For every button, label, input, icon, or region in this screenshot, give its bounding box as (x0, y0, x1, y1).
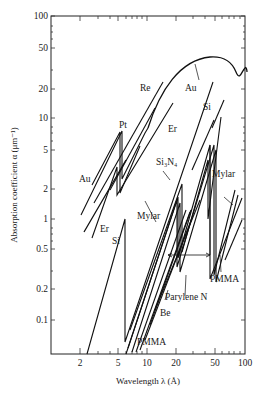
x-tick-100: 100 (238, 358, 253, 368)
y-tick-0-2: 0.2 (36, 284, 48, 294)
y-tick-0-5: 0.5 (36, 244, 48, 254)
x-tick-labels: 2 5 10 20 50 100 (78, 358, 253, 368)
leader-lines (145, 64, 233, 300)
series-labels: Au Si Re Pt Er Au Si₃N₄ Mylar Er Si Myla… (79, 83, 239, 347)
curve-extra-5 (225, 220, 242, 260)
label-be: Be (160, 308, 171, 318)
label-parylene-n: Parylene N (165, 292, 208, 302)
label-pt: Pt (119, 120, 127, 130)
label-mylar-mid: Mylar (137, 211, 161, 221)
curve-extra-6 (212, 100, 224, 128)
label-er-left: Er (100, 224, 110, 234)
curve-au (81, 128, 148, 215)
y-tick-0-1: 0.1 (36, 315, 48, 325)
label-si-top: Si (203, 102, 211, 112)
y-tick-100: 100 (34, 11, 49, 21)
label-si-left: Si (112, 236, 120, 246)
y-tick-10: 10 (39, 113, 49, 123)
curve-au-high (84, 57, 247, 232)
y-tick-5: 5 (43, 145, 48, 155)
y-tick-2: 2 (43, 184, 48, 194)
curve-extra-1 (136, 210, 186, 352)
label-re: Re (140, 83, 151, 93)
x-tick-20: 20 (171, 358, 181, 368)
x-axis-title: Wavelength λ (Å) (116, 376, 180, 386)
curve-extra-7 (192, 120, 214, 170)
label-pmma-right: PMMA (210, 274, 239, 284)
label-mylar-right: Mylar (212, 169, 236, 179)
curve-pt (92, 132, 140, 193)
curve-re (94, 82, 163, 203)
x-tick-2: 2 (78, 358, 83, 368)
curve-parylene (132, 150, 238, 352)
label-au-left: Au (79, 174, 91, 184)
label-si3n4: Si₃N₄ (156, 157, 177, 167)
x-tick-5: 5 (116, 358, 121, 368)
y-tick-1: 1 (43, 214, 48, 224)
label-pmma-bottom: PMMA (137, 337, 166, 347)
x-tick-50: 50 (210, 358, 220, 368)
y-tick-20: 20 (39, 84, 49, 94)
y-tick-50: 50 (39, 43, 49, 53)
x-tick-10: 10 (142, 358, 152, 368)
label-au-top: Au (185, 83, 197, 93)
curve-er (92, 103, 173, 238)
label-er-top: Er (168, 124, 178, 134)
y-tick-labels: 100 50 20 10 5 2 1 0.5 0.2 0.1 (34, 11, 49, 325)
absorption-chart: 100 50 20 10 5 2 1 0.5 0.2 0.1 2 5 10 20… (0, 0, 264, 396)
y-axis-title: Absorption coefficient α (μm⁻¹) (9, 127, 19, 243)
